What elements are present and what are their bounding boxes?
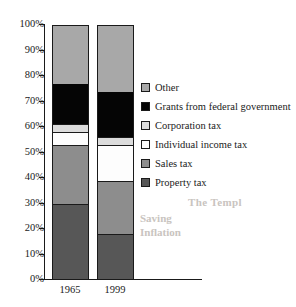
y-axis-line (44, 24, 45, 280)
legend-swatch-icon (141, 159, 150, 168)
legend-item-label: Other (155, 82, 179, 94)
bar-segment-1999-property-tax (98, 235, 133, 280)
legend-swatch-icon (141, 102, 150, 111)
legend-item-label: Individual income tax (155, 139, 247, 151)
y-axis-tick-label-70: 70% (8, 96, 44, 106)
legend-item-label: Grants from federal government (155, 101, 291, 113)
x-axis-label-1999: 1999 (85, 284, 145, 296)
bar-segment-1965-sales-tax (53, 145, 88, 204)
bar-segment-1999-individual-income-tax (98, 145, 133, 181)
y-axis-tick-label-10: 10% (8, 249, 44, 259)
legend-swatch-icon (141, 83, 150, 92)
legend-item-label: Property tax (155, 177, 207, 189)
y-axis-ticks: 0%10%20%30%40%50%60%70%80%90%100% (0, 0, 44, 307)
bar-segment-1965-grants-from-federal-government (53, 84, 88, 125)
bar-segment-1999-other (98, 26, 133, 92)
bar-segment-divider (98, 137, 133, 138)
legend-swatch-icon (141, 140, 150, 149)
y-axis-tick-label-80: 80% (8, 70, 44, 80)
bleed-through-text-2: Saving (140, 212, 172, 224)
y-axis-tick-label-30: 30% (8, 198, 44, 208)
legend-item-individual-income-tax: Individual income tax (141, 135, 296, 154)
bar-1999 (97, 25, 134, 280)
bar-segment-divider (98, 145, 133, 146)
legend-item-label: Sales tax (155, 158, 193, 170)
y-axis-tick-label-20: 20% (8, 223, 44, 233)
bar-segment-1999-sales-tax (98, 181, 133, 235)
legend-swatch-icon (141, 178, 150, 187)
y-axis-tick-label-100: 100% (8, 19, 44, 29)
y-axis-tick-label-60: 60% (8, 121, 44, 131)
bar-segment-divider (53, 145, 88, 146)
stacked-bar-chart: The Templ Saving Inflation 0%10%20%30%40… (0, 0, 296, 307)
chart-legend: OtherGrants from federal governmentCorpo… (141, 78, 296, 192)
bar-segment-1999-grants-from-federal-government (98, 92, 133, 138)
legend-item-corporation-tax: Corporation tax (141, 116, 296, 135)
bar-segment-1965-property-tax (53, 204, 88, 280)
bar-segment-1965-individual-income-tax (53, 133, 88, 146)
legend-item-property-tax: Property tax (141, 173, 296, 192)
y-axis-tick-label-0: 0% (8, 274, 44, 284)
y-axis-tick-label-40: 40% (8, 172, 44, 182)
bar-segment-divider (53, 132, 88, 133)
legend-item-sales-tax: Sales tax (141, 154, 296, 173)
bar-segment-divider (53, 124, 88, 125)
bar-segment-divider (98, 181, 133, 182)
bar-segment-1965-other (53, 26, 88, 85)
legend-swatch-icon (141, 121, 150, 130)
y-axis-tick-label-90: 90% (8, 45, 44, 55)
bar-segment-divider (98, 234, 133, 235)
legend-item-other: Other (141, 78, 296, 97)
bleed-through-text-1: The Templ (188, 196, 242, 208)
legend-item-label: Corporation tax (155, 120, 221, 132)
legend-item-grants-from-federal-government: Grants from federal government (141, 97, 296, 116)
bleed-through-text-3: Inflation (140, 226, 181, 238)
bar-1965 (52, 25, 89, 280)
bar-segment-divider (53, 204, 88, 205)
y-axis-tick-label-50: 50% (8, 147, 44, 157)
